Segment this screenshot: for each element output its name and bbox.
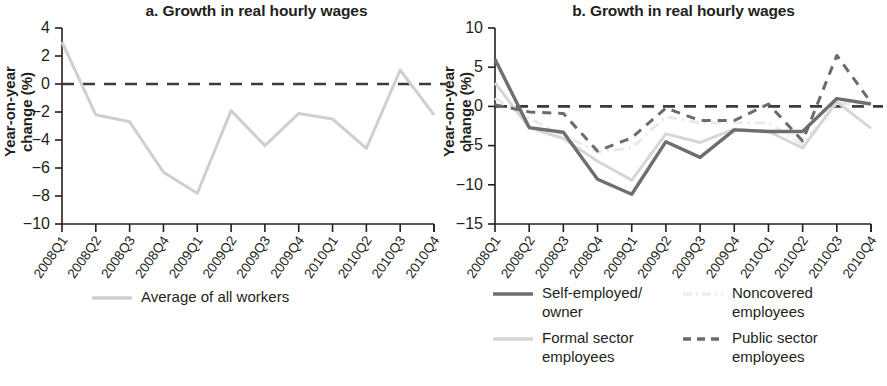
x-tick-label: 2009Q4	[703, 233, 743, 281]
chart-panel-a: a. Growth in real hourly wages Year-on-y…	[0, 0, 437, 386]
legend-line-sample	[683, 330, 723, 348]
x-tick-label: 2010Q3	[805, 233, 845, 281]
y-tick-label: −10	[23, 215, 50, 232]
y-tick-label: −4	[32, 131, 50, 148]
panel-b-svg: 1050−5−10−152008Q12008Q22008Q32008Q42009…	[495, 28, 871, 278]
x-tick-label: 2009Q1	[600, 233, 640, 281]
x-tick-label: 2008Q3	[532, 233, 572, 281]
panel-b-title: b. Growth in real hourly wages	[437, 2, 887, 20]
legend-label: Average of all workers	[141, 288, 289, 307]
x-tick-label: 2008Q1	[464, 233, 504, 281]
y-tick-label: −2	[32, 103, 50, 120]
data-series-line	[495, 59, 871, 194]
data-series-line	[62, 42, 434, 193]
y-tick-label: −5	[465, 136, 483, 153]
panel-b-y-axis-label: Year-on-year change (%)	[441, 24, 475, 200]
legend-label: Formal sector employees	[542, 329, 634, 366]
x-tick-label: 2008Q1	[31, 233, 71, 281]
y-tick-label: 0	[474, 97, 483, 114]
y-tick-label: 5	[474, 58, 483, 75]
legend-item: Average of all workers	[92, 288, 289, 307]
legend-line-sample	[493, 285, 533, 303]
x-tick-label: 2010Q1	[301, 233, 341, 281]
y-tick-label: 10	[465, 19, 483, 36]
legend-label: Self-employed/ owner	[542, 284, 642, 321]
panel-a-y-axis-label: Year-on-year change (%)	[2, 24, 36, 200]
y-tick-label: −15	[456, 215, 483, 232]
panel-b-legend: Self-employed/ owner Noncovered employee…	[493, 284, 873, 366]
legend-line-sample	[683, 285, 723, 303]
x-tick-label: 2008Q4	[566, 233, 606, 281]
x-tick-label: 2009Q2	[635, 233, 675, 281]
legend-line-sample	[493, 330, 533, 348]
x-tick-label: 2010Q2	[771, 233, 811, 281]
y-tick-label: −8	[32, 187, 50, 204]
x-tick-label: 2009Q3	[669, 233, 709, 281]
legend-label: Public sector employees	[732, 329, 818, 366]
x-tick-label: 2008Q2	[64, 233, 104, 281]
legend-line-sample	[92, 289, 132, 307]
y-tick-label: −6	[32, 159, 50, 176]
y-tick-label: 4	[41, 19, 50, 36]
x-tick-label: 2009Q2	[200, 233, 240, 281]
x-tick-label: 2009Q1	[166, 233, 206, 281]
legend-item: Self-employed/ owner	[493, 284, 683, 321]
panel-a-svg: 420−2−4−6−8−102008Q12008Q22008Q32008Q420…	[62, 28, 434, 278]
x-tick-label: 2008Q3	[98, 233, 138, 281]
chart-panel-b: b. Growth in real hourly wages Year-on-y…	[437, 0, 874, 386]
x-tick-label: 2010Q3	[369, 233, 409, 281]
panel-a-legend: Average of all workers	[92, 288, 289, 307]
panel-a-plot-area: 420−2−4−6−8−102008Q12008Q22008Q32008Q420…	[62, 28, 434, 278]
x-tick-label: 2010Q2	[335, 233, 375, 281]
x-tick-label: 2008Q2	[498, 233, 538, 281]
legend-item: Noncovered employees	[683, 284, 873, 321]
x-tick-label: 2009Q3	[234, 233, 274, 281]
y-tick-label: 0	[41, 75, 50, 92]
legend-label: Noncovered employees	[732, 284, 813, 321]
x-tick-label: 2010Q1	[737, 233, 777, 281]
legend-item: Formal sector employees	[493, 329, 683, 366]
x-tick-label: 2010Q4	[840, 233, 880, 281]
panel-b-plot-area: 1050−5−10−152008Q12008Q22008Q32008Q42009…	[495, 28, 871, 278]
legend-item: Public sector employees	[683, 329, 873, 366]
y-tick-label: 2	[41, 47, 50, 64]
y-tick-label: −10	[456, 176, 483, 193]
panel-a-title: a. Growth in real hourly wages	[0, 2, 475, 20]
